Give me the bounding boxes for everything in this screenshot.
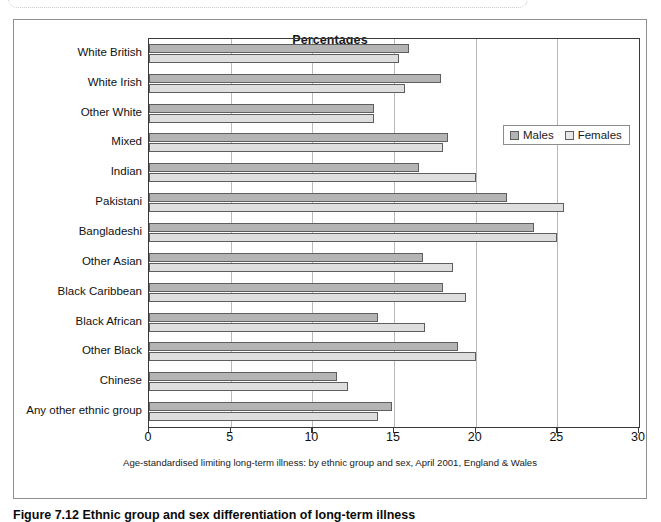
axis-caption: Age-standardised limiting long-term illn…: [14, 457, 646, 468]
bar-males: [149, 342, 458, 351]
bar-group: [149, 158, 639, 188]
y-axis-label: Chinese: [100, 375, 142, 387]
x-axis-tick-label: 25: [549, 430, 563, 444]
bar-group: [149, 69, 639, 99]
y-axis-label: Other Asian: [82, 256, 142, 268]
legend-label-females: Females: [578, 129, 622, 141]
bar-females: [149, 233, 557, 242]
bar-group: [149, 218, 639, 248]
x-axis-tick-label: 0: [145, 430, 152, 444]
y-axis-label: Other White: [81, 107, 142, 119]
bar-females: [149, 203, 564, 212]
bar-females: [149, 352, 476, 361]
top-dotted-box: [8, 0, 528, 8]
bar-males: [149, 133, 448, 142]
bar-males: [149, 74, 441, 83]
bar-group: [149, 39, 639, 69]
bar-females: [149, 412, 378, 421]
bar-males: [149, 283, 443, 292]
bar-males: [149, 163, 419, 172]
bar-females: [149, 323, 425, 332]
bar-males: [149, 193, 507, 202]
x-axis-tick-label: 30: [631, 430, 645, 444]
bar-males: [149, 223, 534, 232]
x-axis-tick-label: 15: [386, 430, 400, 444]
chart-panel: Percentages White BritishWhite IrishOthe…: [13, 19, 647, 499]
y-axis-label: Bangladeshi: [79, 226, 142, 238]
bar-group: [149, 308, 639, 338]
bar-group: [149, 188, 639, 218]
bar-group: [149, 367, 639, 397]
bar-males: [149, 253, 423, 262]
bar-females: [149, 84, 405, 93]
y-axis-label: Black African: [76, 316, 142, 328]
bar-females: [149, 114, 374, 123]
y-axis-label: Other Black: [82, 345, 142, 357]
plot-area: [148, 38, 640, 428]
bar-males: [149, 402, 392, 411]
y-axis-label: Mixed: [111, 136, 142, 148]
bar-females: [149, 263, 453, 272]
x-axis-tick-label: 10: [304, 430, 318, 444]
bar-females: [149, 54, 399, 63]
y-axis-label: Any other ethnic group: [26, 405, 142, 417]
bar-males: [149, 313, 378, 322]
legend-swatch-icon: [565, 131, 574, 140]
x-axis-tick-label: 20: [468, 430, 482, 444]
bar-group: [149, 278, 639, 308]
x-axis-tick-label: 5: [226, 430, 233, 444]
x-axis-tick-labels: 051015202530: [148, 430, 640, 448]
y-axis-category-labels: White BritishWhite IrishOther WhiteMixed…: [14, 38, 142, 426]
bar-females: [149, 382, 348, 391]
bar-group: [149, 248, 639, 278]
legend-label-males: Males: [523, 129, 554, 141]
y-axis-label: Black Caribbean: [58, 286, 142, 298]
bar-females: [149, 293, 466, 302]
y-axis-label: Indian: [111, 166, 142, 178]
legend-item-males: Males: [510, 129, 554, 141]
y-axis-label: White Irish: [88, 77, 142, 89]
bar-males: [149, 44, 409, 53]
y-axis-label: Pakistani: [95, 196, 142, 208]
y-axis-label: White British: [77, 47, 142, 59]
bar-females: [149, 173, 476, 182]
bar-females: [149, 143, 443, 152]
chart-legend: Males Females: [503, 125, 630, 145]
legend-item-females: Females: [565, 129, 622, 141]
figure-caption: Figure 7.12 Ethnic group and sex differe…: [13, 508, 415, 522]
bar-males: [149, 372, 337, 381]
bar-males: [149, 104, 374, 113]
bar-group: [149, 337, 639, 367]
legend-swatch-icon: [510, 131, 519, 140]
bar-group: [149, 397, 639, 427]
